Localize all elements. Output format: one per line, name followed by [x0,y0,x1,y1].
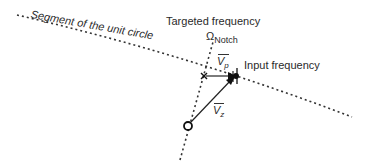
vector-bar-icon [214,103,224,104]
notch-filter-diagram: Segment of the unit circle Targeted freq… [0,0,369,167]
omega-notch-label: ΩNotch [206,30,238,45]
input-frequency-point [233,73,239,79]
targeted-frequency-label: Targeted frequency [166,15,260,27]
vz-label: Vz [213,104,224,119]
vp-label: Vp [217,55,229,70]
vector-bar-icon [218,54,229,55]
input-frequency-label: Input frequency [244,59,320,71]
radial-line [180,42,213,160]
omega-symbol: Ω [206,30,214,42]
omega-subscript: Notch [214,35,238,45]
vz-subscript: z [220,110,224,119]
zero-o-marker [184,122,192,130]
vp-subscript: p [224,61,228,70]
